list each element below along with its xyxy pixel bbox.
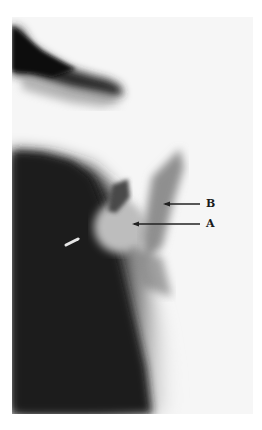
annotation-label-a: A (206, 218, 215, 229)
annotation-label-b: B (206, 198, 215, 209)
radiograph-image (12, 17, 253, 414)
